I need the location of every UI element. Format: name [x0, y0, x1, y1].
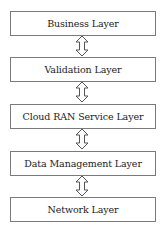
bidirectional-arrow-icon [74, 128, 90, 150]
bidirectional-arrow-icon [74, 175, 90, 197]
bidirectional-arrow-icon [74, 81, 90, 103]
validation-layer-box: Validation Layer [10, 57, 156, 82]
validation-layer-label: Validation Layer [44, 64, 121, 75]
data-management-layer-box: Data Management Layer [10, 151, 156, 176]
network-layer-box: Network Layer [10, 197, 156, 222]
business-layer-label: Business Layer [47, 18, 119, 29]
cloud-ran-service-layer-label: Cloud RAN Service Layer [23, 111, 144, 122]
business-layer-box: Business Layer [10, 11, 156, 36]
bidirectional-arrow-icon [74, 35, 90, 57]
cloud-ran-service-layer-box: Cloud RAN Service Layer [10, 104, 156, 129]
network-layer-label: Network Layer [47, 204, 118, 215]
data-management-layer-label: Data Management Layer [24, 158, 142, 169]
